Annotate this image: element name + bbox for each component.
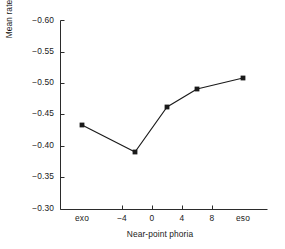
y-tick-label: −0.35 <box>20 171 54 181</box>
data-point <box>195 87 200 92</box>
chart-figure: −0.60 −0.55 −0.50 −0.45 −0.40 −0.35 −0.3… <box>0 0 285 249</box>
y-tick-label: −0.40 <box>20 140 54 150</box>
y-tick-label: −0.55 <box>20 46 54 56</box>
x-tick-label: eso <box>225 213 261 223</box>
y-axis-title: Mean rate (D/yr) <box>4 0 18 72</box>
y-tick-label: −0.60 <box>20 15 54 25</box>
y-tick-label: −0.30 <box>20 203 54 213</box>
data-line <box>82 78 243 152</box>
y-tick-marks <box>61 21 65 210</box>
x-tick-marks <box>123 206 213 210</box>
data-point <box>165 105 170 110</box>
y-tick-label: −0.50 <box>20 77 54 87</box>
y-tick-label: −0.45 <box>20 108 54 118</box>
data-markers <box>80 76 246 155</box>
x-tick-label: exo <box>64 213 100 223</box>
data-point <box>80 123 85 128</box>
data-point <box>133 150 138 155</box>
data-point <box>241 76 246 81</box>
x-axis-title: Near-point phoria <box>60 229 260 239</box>
